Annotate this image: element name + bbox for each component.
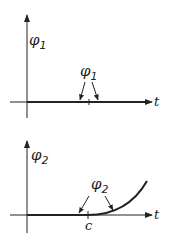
bottom-phi2-curve	[27, 181, 147, 215]
diagram: φ1 φ1 t φ2 φ2 c t	[0, 0, 172, 243]
top-pointer-arrow-right	[92, 82, 98, 100]
bottom-pointer-arrow-left	[79, 196, 89, 213]
top-curve-label: φ1	[80, 62, 98, 83]
bottom-x-axis-label: t	[154, 207, 160, 222]
bottom-pointer-arrow-right	[105, 196, 113, 210]
top-pointer-arrow-left	[80, 82, 85, 100]
bottom-tick-label-c: c	[85, 218, 93, 233]
bottom-curve-label: φ2	[91, 175, 109, 196]
top-panel: φ1 φ1 t	[10, 15, 160, 118]
top-x-axis-label: t	[154, 94, 160, 109]
bottom-y-axis-label: φ2	[31, 146, 49, 167]
bottom-panel: φ2 φ2 c t	[10, 141, 160, 233]
top-y-axis-label: φ1	[29, 31, 47, 52]
